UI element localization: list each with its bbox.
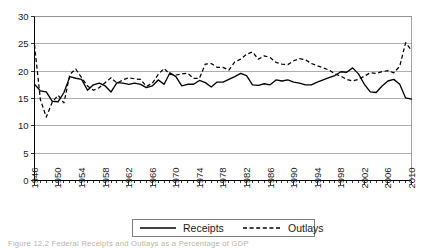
x-tick-label-1986: 1986 — [265, 167, 276, 188]
x-tick-label-1998: 1998 — [335, 167, 346, 188]
x-tick-label-1974: 1974 — [194, 167, 205, 188]
x-tick-label-1970: 1970 — [170, 167, 181, 188]
gridlines-group — [35, 17, 412, 154]
x-tick-label-1978: 1978 — [217, 167, 228, 188]
x-tick-label-1966: 1966 — [147, 167, 158, 188]
x-tick-label-1962: 1962 — [123, 167, 134, 188]
y-tick-label-20: 20 — [18, 66, 29, 77]
legend-label-outlays: Outlays — [288, 222, 324, 234]
series-line-outlays — [35, 43, 412, 117]
x-tick-label-1990: 1990 — [288, 167, 299, 188]
x-tick-label-1946: 1946 — [29, 167, 40, 188]
y-tick-label-15: 15 — [18, 93, 29, 104]
chart-legend: Receipts Outlays — [133, 220, 324, 237]
legend-label-receipts: Receipts — [183, 222, 224, 234]
x-axis-ticks: 1946195019541958196219661970197419781982… — [29, 167, 417, 188]
chart-svg: 051015202530 194619501954195819621966197… — [0, 0, 427, 249]
x-tick-label-1982: 1982 — [241, 167, 252, 188]
y-tick-label-5: 5 — [23, 148, 28, 159]
y-tick-label-30: 30 — [18, 11, 29, 22]
figure-caption: Figure 12.2 Federal Receipts and Outlays… — [8, 239, 249, 248]
series-line-receipts — [35, 68, 412, 102]
y-tick-label-0: 0 — [23, 175, 28, 186]
y-axis-ticks: 051015202530 — [18, 11, 35, 186]
x-tick-label-1950: 1950 — [52, 167, 63, 188]
x-tick-label-1954: 1954 — [76, 167, 87, 188]
data-series-group — [35, 43, 412, 117]
x-tick-label-2002: 2002 — [359, 167, 370, 188]
x-tick-label-1994: 1994 — [312, 167, 323, 188]
y-tick-label-10: 10 — [18, 120, 29, 131]
x-tick-label-2006: 2006 — [382, 167, 393, 188]
figure-container: 051015202530 194619501954195819621966197… — [0, 0, 427, 249]
x-tick-label-2010: 2010 — [406, 167, 417, 188]
x-tick-label-1958: 1958 — [100, 167, 111, 188]
y-tick-label-25: 25 — [18, 38, 29, 49]
